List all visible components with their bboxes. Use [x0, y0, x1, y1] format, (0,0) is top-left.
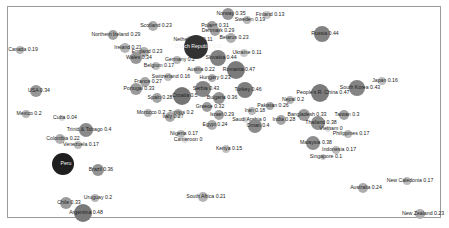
data-point-label: Kenya 0.15 [216, 146, 242, 151]
data-point-label: Singapore 0.1 [310, 154, 342, 159]
data-point-label: Portugal 0.33 [124, 86, 155, 91]
data-point-label: Czech Republic 0.81 [175, 44, 223, 49]
data-point-label: Iran 0.18 [245, 108, 265, 113]
data-point-label: South Africa 0.21 [186, 194, 226, 199]
data-point-label: Northern Ireland 0.29 [91, 32, 140, 37]
data-point-label: Mexico 0.2 [16, 111, 41, 116]
data-point-label: Scotland 0.23 [140, 23, 172, 28]
data-point-label: Belgium 0.17 [144, 63, 174, 68]
data-point-label: Spain 0.28 [148, 95, 173, 100]
data-point-label: Cameroon 0 [174, 137, 203, 142]
data-point-label: Israel 0.29 [210, 112, 234, 117]
data-point-label: Venezuela 0.17 [63, 142, 99, 147]
data-point-label: New Caledonia 0.17 [387, 178, 434, 183]
data-point-label: Belarus 0.23 [219, 35, 248, 40]
data-point-label: Sweden 0.19 [235, 17, 265, 22]
data-point-label: Taiwan 0.3 [335, 112, 360, 117]
data-point-label: Russia 0.44 [311, 31, 338, 36]
data-point-label: Serbia 0.43 [193, 86, 220, 91]
data-point-label: Peru [61, 161, 72, 166]
data-point-label: Argentina 0.48 [69, 210, 103, 215]
data-point-label: New Zealand 0.23 [402, 211, 444, 216]
data-point-label: Japan 0.16 [372, 78, 398, 83]
data-point-label: Egypt 0.24 [203, 122, 228, 127]
data-point-label: Hungary 0.23 [199, 75, 230, 80]
data-point-label: Austria 0.22 [187, 67, 215, 72]
data-point-label: Romania 0.47 [223, 67, 255, 72]
data-point-label: Canada 0.19 [8, 47, 38, 52]
data-point-label: Croatia 0.5 [172, 93, 197, 98]
data-point-label: Cuba 0.04 [53, 115, 77, 120]
data-point-label: Bulgaria 0.36 [207, 95, 238, 100]
data-point-label: Wales 0.34 [126, 55, 152, 60]
data-point-label: Nepal 0.2 [282, 97, 304, 102]
data-point-label: USA 0.34 [28, 88, 50, 93]
data-point-label: Brazil 0.36 [89, 167, 114, 172]
data-point-label: Uruguay 0.2 [84, 195, 112, 200]
data-point-label: Trinid.& Tobago 0.4 [67, 127, 112, 132]
data-point-label: Italy 0.27 [162, 114, 183, 119]
data-point-label: Malaysia 0.38 [300, 140, 332, 145]
data-point-label: Australia 0.24 [350, 185, 382, 190]
data-point-label: Greece 0.32 [196, 104, 225, 109]
data-point-label: People's R. China 0.47 [297, 90, 350, 95]
data-point-label: Turkey 0.46 [234, 87, 261, 92]
data-point-label: Indonesia 0.17 [322, 147, 356, 152]
data-point-label: India 0.28 [273, 117, 296, 122]
data-point-label: Oman 0.4 [247, 123, 270, 128]
data-point-label: Philippines 0.17 [333, 131, 370, 136]
data-point-label: Morocco 0.2 [137, 110, 166, 115]
bubble-chart: Norway 0.35Finland 0.13Sweden 0.19Scotla… [0, 0, 449, 228]
data-point-label: Slovakia 0.44 [205, 55, 236, 60]
data-point-label: Ukraine 0.11 [232, 50, 261, 55]
